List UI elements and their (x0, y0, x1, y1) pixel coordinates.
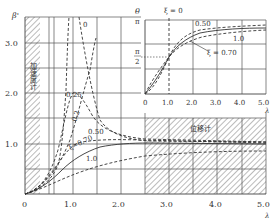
main-ylabel: β' (11, 11, 19, 20)
inset-label-070: ξ = 0.70 (207, 49, 237, 57)
xtick-1: 1.0 (64, 200, 77, 209)
accelerometer-label: 加速度计 (29, 61, 38, 91)
curve-label-10: 1.0 (86, 155, 97, 163)
curve-label-025: 0.25 (66, 91, 82, 99)
inset-ytick-pi2-num: π (135, 48, 140, 56)
xtick-5: 5.0 (257, 200, 270, 209)
inset-xi0-label: ξ = 0 (164, 7, 183, 15)
inset-xtick-1: 1.0 (162, 99, 173, 107)
accelerometer-region (25, 17, 40, 194)
inset-xtick-0: 0 (143, 99, 147, 107)
curve-label-0: 0 (83, 21, 87, 29)
xtick-4: 4.0 (209, 200, 222, 209)
inset-label-10: 1.0 (233, 35, 244, 43)
xtick-0: 0 (22, 200, 27, 209)
displacement-meter-label: 位移计 (190, 124, 211, 133)
inset-xtick-4: 4.0 (234, 99, 245, 107)
ytick-3: 3.0 (5, 39, 18, 48)
inset-xtick-5: 5.0 (258, 99, 269, 107)
amplitude-phase-chart: β' 3.0 2.0 1.0 0 1.0 2.0 3.0 4.0 5.0 λ 加… (0, 0, 276, 224)
xtick-3: 3.0 (160, 200, 173, 209)
inset-xtick-2: 2.0 (186, 99, 197, 107)
inset-ytick-pi: π (135, 18, 140, 26)
ytick-1: 1.0 (5, 140, 18, 149)
inset-xtick-3: 3.0 (210, 99, 221, 107)
inset-ytick-pi2-den: 2 (135, 58, 139, 66)
xtick-2: 2.0 (112, 200, 125, 209)
curve-label-02: 0.2 (70, 109, 81, 122)
inset-label-050: 0.50 (195, 20, 211, 28)
ytick-2: 2.0 (5, 89, 18, 98)
inset-plot: θ π π 2 ξ = 0 0.50 1.0 ξ = 0.70 0 1.0 2.… (134, 5, 276, 115)
main-xlabel: λ (264, 212, 269, 220)
inset-ylabel: θ (135, 7, 140, 16)
inset-xlabel: λ (264, 107, 269, 115)
